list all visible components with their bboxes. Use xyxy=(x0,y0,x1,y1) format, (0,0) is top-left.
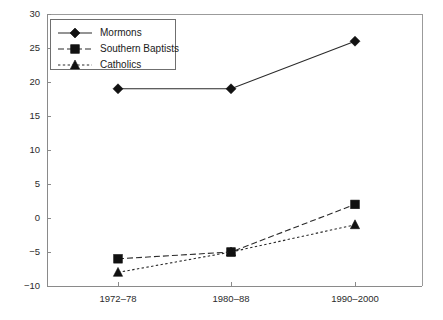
x-tick-label: 1972–78 xyxy=(100,293,137,304)
x-tick-label: 1980–88 xyxy=(213,293,250,304)
y-tick-label: 25 xyxy=(29,42,40,53)
y-tick-label: 5 xyxy=(35,178,40,189)
data-point xyxy=(350,220,359,229)
line-chart: −10−5051015202530 1972–781980–881990–200… xyxy=(0,0,443,320)
data-point xyxy=(114,255,123,264)
series-catholics xyxy=(113,220,359,276)
y-tick-label: −5 xyxy=(29,246,40,257)
data-point xyxy=(351,200,360,209)
data-point xyxy=(226,84,236,94)
data-point xyxy=(113,267,122,276)
legend-marker-square-icon xyxy=(71,45,80,54)
series-line xyxy=(118,225,355,273)
y-tick-label: −10 xyxy=(24,280,40,291)
y-tick-label: 15 xyxy=(29,110,40,121)
y-tick-label: 20 xyxy=(29,76,40,87)
y-tick-label: 30 xyxy=(29,8,40,19)
x-axis-ticks: 1972–781980–881990–2000 xyxy=(100,282,379,304)
chart-container: −10−5051015202530 1972–781980–881990–200… xyxy=(0,0,443,320)
data-point xyxy=(350,36,360,46)
series-layer xyxy=(113,36,360,276)
legend-label: Southern Baptists xyxy=(100,43,179,54)
x-tick-label: 1990–2000 xyxy=(331,293,379,304)
legend-label: Mormons xyxy=(100,27,142,38)
y-tick-label: 10 xyxy=(29,144,40,155)
legend-label: Catholics xyxy=(100,59,141,70)
y-tick-label: 0 xyxy=(35,212,40,223)
legend: MormonsSouthern BaptistsCatholics xyxy=(51,20,179,70)
data-point xyxy=(113,84,123,94)
